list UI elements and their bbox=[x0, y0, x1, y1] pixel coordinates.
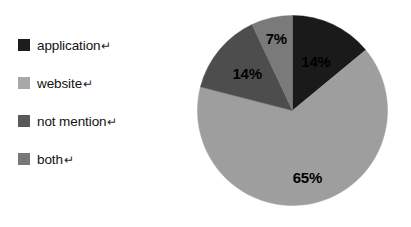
chart-legend: application ↵ website ↵ not mention ↵ bo… bbox=[18, 26, 188, 178]
pie-chart-plot: 14%65%14%7% bbox=[197, 15, 388, 206]
pie-value-label-website: 65% bbox=[293, 169, 322, 186]
legend-label-not-mention: not mention bbox=[37, 114, 106, 129]
legend-swatch-application bbox=[18, 39, 30, 51]
pie-value-label-both: 7% bbox=[266, 30, 287, 47]
pie-value-label-not-mention: 14% bbox=[232, 64, 261, 81]
legend-swatch-not-mention bbox=[18, 115, 30, 127]
legend-swatch-website bbox=[18, 77, 30, 89]
paragraph-return-icon: ↵ bbox=[101, 39, 111, 53]
legend-item-not-mention[interactable]: not mention ↵ bbox=[18, 102, 188, 140]
legend-label-application: application bbox=[37, 38, 100, 53]
paragraph-return-icon: ↵ bbox=[64, 153, 74, 167]
legend-item-application[interactable]: application ↵ bbox=[18, 26, 188, 64]
legend-label-website: website bbox=[37, 76, 82, 91]
paragraph-return-icon: ↵ bbox=[107, 115, 117, 129]
legend-item-both[interactable]: both ↵ bbox=[18, 140, 188, 178]
pie-value-label-application: 14% bbox=[301, 52, 330, 69]
pie-chart-figure: application ↵ website ↵ not mention ↵ bo… bbox=[0, 0, 411, 227]
legend-label-both: both bbox=[37, 152, 63, 167]
paragraph-return-icon: ↵ bbox=[83, 77, 93, 91]
legend-item-website[interactable]: website ↵ bbox=[18, 64, 188, 102]
legend-swatch-both bbox=[18, 153, 30, 165]
